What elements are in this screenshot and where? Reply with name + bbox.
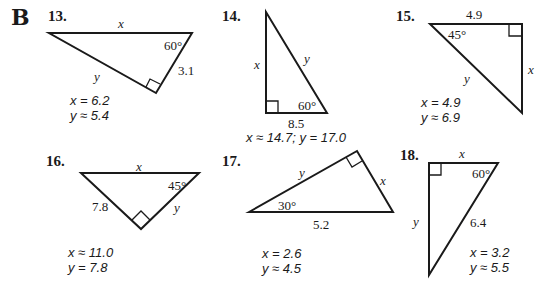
problem-number-15: 15.	[396, 8, 415, 25]
label-15-right: x	[528, 63, 534, 76]
label-16-angle: 45°	[168, 179, 186, 192]
label-16-right: y	[174, 201, 180, 214]
label-15-hyp: y	[464, 72, 470, 85]
answer-18-line-2: y ≈ 5.5	[470, 260, 509, 275]
label-13-hyp: y	[94, 70, 100, 83]
label-18-angle: 60°	[472, 167, 490, 180]
answer-13: x = 6.2 y ≈ 5.4	[70, 93, 109, 123]
label-14-bottom: 8.5	[288, 117, 304, 130]
label-14-angle: 60°	[298, 99, 316, 112]
problem-number-16: 16.	[46, 153, 65, 170]
label-13-angle: 60°	[164, 39, 182, 52]
answer-13-line-1: x = 6.2	[70, 93, 109, 108]
right-angle-mark-14	[266, 101, 278, 113]
answer-15-line-1: x = 4.9	[421, 95, 460, 110]
problem-number-18: 18.	[400, 147, 419, 164]
triangle-14	[266, 12, 327, 113]
label-15-angle: 45°	[448, 28, 466, 41]
answer-16-line-1: x ≈ 11.0	[68, 245, 113, 260]
right-angle-mark-16	[132, 211, 150, 220]
answer-15: x = 4.9 y ≈ 6.9	[421, 95, 460, 125]
answer-13-line-2: y ≈ 5.4	[70, 108, 109, 123]
label-15-top: 4.9	[466, 8, 482, 21]
label-18-top: x	[459, 147, 465, 160]
problem-number-13: 13.	[48, 8, 67, 25]
label-17-right: x	[380, 174, 386, 187]
label-18-hyp: 6.4	[470, 216, 486, 229]
right-angle-mark-18	[429, 163, 441, 175]
right-angle-mark-15	[509, 24, 522, 36]
label-17-upper: y	[299, 166, 305, 179]
triangle-17	[249, 151, 393, 212]
answer-16-line-2: y = 7.8	[68, 260, 113, 275]
label-18-left: y	[413, 215, 419, 228]
answer-17: x = 2.6 y ≈ 4.5	[262, 246, 301, 276]
answer-14-line-1: x ≈ 14.7; y = 17.0	[246, 130, 346, 145]
label-17-bottom: 5.2	[313, 218, 329, 231]
answer-17-line-1: x = 2.6	[262, 246, 301, 261]
problem-number-17: 17.	[222, 153, 241, 170]
label-14-left: x	[254, 58, 260, 71]
label-16-top: x	[136, 160, 142, 173]
right-angle-mark-17	[346, 157, 362, 167]
answer-17-line-2: y ≈ 4.5	[262, 261, 301, 276]
answer-18: x = 3.2 y ≈ 5.5	[470, 245, 509, 275]
label-16-left: 7.8	[92, 200, 108, 213]
label-17-angle: 30°	[278, 199, 296, 212]
answer-18-line-1: x = 3.2	[470, 245, 509, 260]
answer-15-line-2: y ≈ 6.9	[421, 110, 460, 125]
label-14-hyp: y	[304, 52, 310, 65]
right-angle-mark-13	[146, 79, 160, 87]
label-13-side: 3.1	[178, 64, 194, 77]
answer-14: x ≈ 14.7; y = 17.0	[246, 130, 346, 145]
label-13-top: x	[118, 17, 124, 30]
problem-number-14: 14.	[222, 8, 241, 25]
answer-16: x ≈ 11.0 y = 7.8	[68, 245, 113, 275]
